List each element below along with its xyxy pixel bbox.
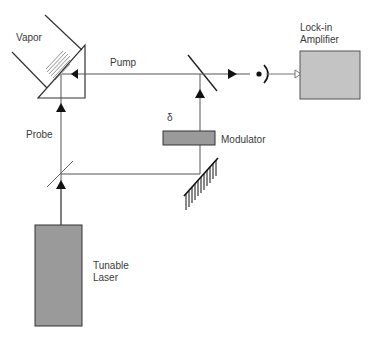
signal-arrow-icon: [228, 69, 237, 79]
lock-in-amplifier: [300, 51, 360, 99]
pump-mirror: [188, 55, 217, 91]
probe-arrow-bottom-icon: [56, 180, 66, 189]
probe-arrow-top-icon: [56, 103, 66, 112]
pump-arrow-icon: [71, 69, 78, 79]
tunable-laser: [35, 225, 82, 326]
probe-label: Probe: [26, 129, 53, 141]
pump-label: Pump: [110, 57, 136, 69]
modulator: [163, 131, 215, 145]
lockin-label: Lock-in Amplifier: [300, 22, 339, 46]
modulator-label: Modulator: [221, 134, 265, 146]
vapor-cell: [12, 15, 82, 88]
optical-diagram: [0, 0, 376, 337]
vapor-label: Vapor: [16, 32, 42, 44]
grating-mirror: [184, 158, 218, 210]
delta-label: δ: [167, 112, 173, 124]
modulator-arrow-icon: [195, 89, 205, 98]
laser-label: Tunable Laser: [93, 260, 129, 284]
